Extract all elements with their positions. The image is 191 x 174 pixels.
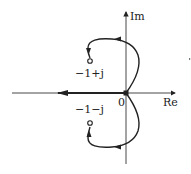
zero-upper-label: −1+j <box>75 67 104 80</box>
root-locus-diagram: Im Re 0 −1+j −1−j <box>0 0 191 174</box>
lower-arrow-up-icon <box>87 130 92 137</box>
stray-mark <box>189 58 190 60</box>
real-axis-label: Re <box>163 96 178 109</box>
zero-upper-marker <box>88 59 93 64</box>
origin-label: 0 <box>118 96 125 109</box>
lower-arrow-left-icon <box>114 145 121 150</box>
zero-lower-label: −1−j <box>75 103 104 116</box>
upper-branch <box>88 39 139 93</box>
zero-lower-marker <box>88 121 93 126</box>
origin-pole-marker <box>124 91 129 96</box>
imag-axis-label: Im <box>130 10 145 23</box>
real-axis-arrow-icon <box>57 90 68 96</box>
lower-branch <box>88 93 139 147</box>
upper-arrow-down-icon <box>86 48 91 55</box>
upper-arrow-left-icon <box>114 37 121 42</box>
